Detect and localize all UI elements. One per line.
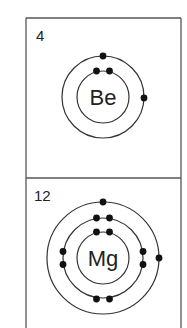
electron-icon [106, 296, 113, 303]
electron-icon [100, 53, 107, 60]
electron-icon [60, 261, 67, 268]
element-symbol: Be [90, 85, 117, 110]
electron-icon [140, 261, 147, 268]
atomic-number-label: 4 [36, 27, 44, 44]
electron-icon [60, 248, 67, 255]
element-symbol: Mg [88, 246, 119, 271]
electron-icon [141, 95, 148, 102]
atomic-number-label: 12 [34, 187, 51, 204]
electron-icon [106, 215, 113, 222]
panel-beryllium: 4 Be [36, 27, 147, 138]
electron-icon [100, 199, 107, 206]
electron-icon [93, 229, 100, 236]
electron-icon [106, 68, 113, 75]
electron-icon [106, 229, 113, 236]
panel-magnesium: 12 Mg [34, 187, 162, 314]
electron-icon [93, 215, 100, 222]
electron-shell-diagram: 4 Be 12 Mg [0, 0, 187, 328]
electron-icon [93, 68, 100, 75]
electron-icon [156, 255, 163, 262]
electron-icon [140, 248, 147, 255]
electron-icon [93, 296, 100, 303]
panel-frame [26, 18, 181, 328]
